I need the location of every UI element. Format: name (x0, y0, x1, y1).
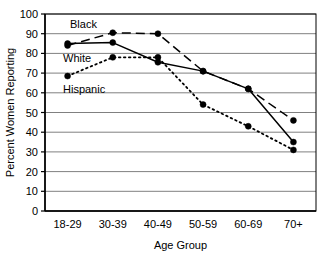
y-tick-label-90: 90 (26, 28, 38, 40)
series-annotation-hispanic: Hispanic (63, 83, 106, 95)
y-tick-label-20: 20 (26, 166, 38, 178)
data-point-white-30-39 (110, 40, 116, 46)
y-tick-label-30: 30 (26, 146, 38, 158)
data-point-hispanic-50-59 (200, 102, 206, 108)
y-tick-label-60: 60 (26, 87, 38, 99)
data-point-black-70+ (290, 117, 296, 123)
y-tick-label-40: 40 (26, 126, 38, 138)
data-point-hispanic-18-29 (65, 73, 71, 79)
x-tick-label-30-39: 30-39 (99, 218, 127, 230)
x-tick-label-50-59: 50-59 (189, 218, 217, 230)
data-point-hispanic-40-49 (155, 54, 161, 60)
x-tick-label-60-69: 60-69 (234, 218, 262, 230)
data-point-hispanic-30-39 (110, 54, 116, 60)
y-tick-label-10: 10 (26, 185, 38, 197)
data-point-white-70+ (290, 139, 296, 145)
y-tick-label-100: 100 (20, 8, 38, 20)
data-point-black-30-39 (110, 30, 116, 36)
data-point-white-18-29 (65, 41, 71, 47)
series-annotation-black: Black (70, 18, 97, 30)
x-tick-label-70+: 70+ (284, 218, 303, 230)
series-line-hispanic (68, 57, 294, 150)
x-tick-label-40-49: 40-49 (144, 218, 172, 230)
y-tick-label-70: 70 (26, 67, 38, 79)
data-point-white-50-59 (200, 68, 206, 74)
y-tick-label-80: 80 (26, 47, 38, 59)
data-point-hispanic-60-69 (245, 123, 251, 129)
line-chart: 010203040506070809010018-2930-3940-4950-… (0, 0, 327, 269)
data-point-white-60-69 (245, 86, 251, 92)
y-tick-label-0: 0 (32, 205, 38, 217)
series-annotation-white: White (63, 52, 91, 64)
chart-figure: 010203040506070809010018-2930-3940-4950-… (0, 0, 327, 269)
data-point-black-40-49 (155, 31, 161, 37)
series-line-black (68, 33, 294, 121)
y-tick-label-50: 50 (26, 107, 38, 119)
y-axis-title: Percent Women Reporting (4, 48, 16, 177)
data-point-hispanic-70+ (290, 147, 296, 153)
x-tick-label-18-29: 18-29 (54, 218, 82, 230)
x-axis-title: Age Group (154, 239, 207, 251)
